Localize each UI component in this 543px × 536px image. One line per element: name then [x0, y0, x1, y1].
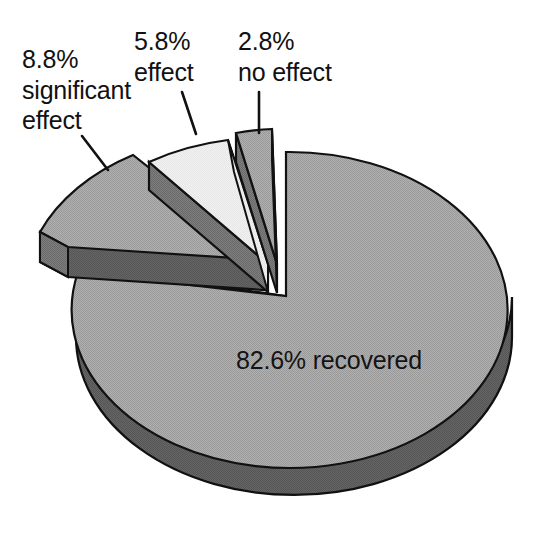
- leader-line-significant-effect: [82, 136, 108, 170]
- label-effect: 5.8% effect: [134, 26, 239, 87]
- label-no-effect: 2.8% no effect: [238, 26, 378, 87]
- label-recovered: 82.6% recovered: [236, 346, 422, 375]
- leader-line-effect: [182, 92, 196, 134]
- pie-chart-figure: 8.8% significant effect 5.8% effect 2.8%…: [0, 0, 543, 536]
